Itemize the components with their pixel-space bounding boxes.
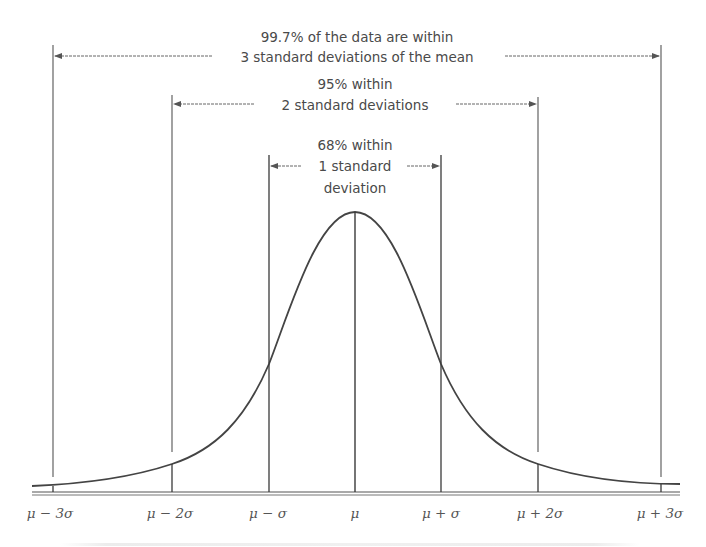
axis-label-minus1: μ − σ — [249, 505, 288, 521]
axis-label-plus2: μ + 2σ — [517, 505, 564, 521]
three-sigma-label-line1: 99.7% of the data are within — [261, 29, 454, 45]
one-sigma-label-line2: 1 standard — [319, 158, 392, 174]
one-sigma-label-line1: 68% within — [317, 137, 392, 153]
two-sigma-label-line2: 2 standard deviations — [282, 97, 429, 113]
baseline — [32, 492, 680, 495]
normal-distribution-diagram: 99.7% of the data are within 3 standard … — [0, 0, 706, 547]
diagram-canvas: 99.7% of the data are within 3 standard … — [0, 0, 706, 547]
clipped-caption — [60, 540, 640, 547]
two-sigma-label-line1: 95% within — [317, 76, 392, 92]
axis-label-minus3: μ − 3σ — [27, 505, 74, 521]
axis-label-plus1: μ + σ — [422, 505, 461, 521]
axis-label-minus2: μ − 2σ — [147, 505, 194, 521]
one-sigma-label-line3: deviation — [324, 180, 387, 196]
axis-label-plus3: μ + 3σ — [637, 505, 684, 521]
axis-labels: μ − 3σ μ − 2σ μ − σ μ μ + σ μ + 2σ μ + 3… — [27, 505, 684, 521]
bell-curve — [32, 212, 680, 486]
annotations: 99.7% of the data are within 3 standard … — [240, 29, 473, 196]
three-sigma-label-line2: 3 standard deviations of the mean — [240, 49, 473, 65]
axis-label-mean: μ — [351, 505, 360, 521]
